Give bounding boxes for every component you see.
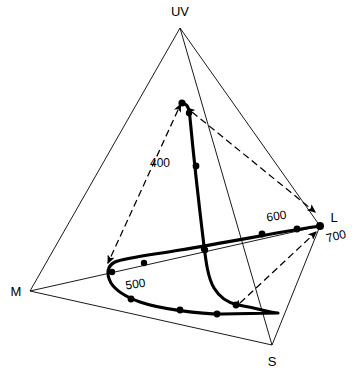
data-point [177,307,184,314]
tetrahedral-color-space-figure: UV M L S 400 500 600 700 [0,0,355,372]
wavelength-label-400: 400 [150,156,170,170]
tetrahedron-edges [30,28,320,345]
edge-m-l [30,226,320,291]
wavelength-label-600: 600 [266,208,288,225]
vertex-label-s: S [268,354,277,369]
wavelength-label-500: 500 [125,276,147,293]
data-point [233,302,240,309]
vertex-label-l: L [330,210,337,225]
data-point [316,222,324,230]
data-point [193,163,200,170]
vertex-label-uv: UV [171,4,189,19]
projection-arrow-s-l-plane [240,232,316,303]
projection-arrow-uv-l-plane [192,112,315,212]
data-point [109,269,115,275]
data-point [259,231,266,238]
data-point [201,246,207,252]
wavelength-label-700: 700 [325,227,348,246]
data-point [294,226,301,233]
wavelength-labels: 400 500 600 700 [125,156,348,292]
data-point [141,260,147,266]
edge-uv-l [180,28,320,226]
edge-uv-s [180,28,272,345]
tetrahedron-diagram: UV M L S 400 500 600 700 [0,0,355,372]
vertex-label-m: M [11,284,22,299]
data-point [214,311,221,318]
edge-l-s [272,226,320,345]
data-point [186,110,192,116]
edge-m-s [30,291,272,345]
vertex-labels: UV M L S [11,4,338,369]
data-point [128,296,135,303]
data-point [178,99,185,106]
projection-arrow-uv-m-plane [108,110,178,263]
